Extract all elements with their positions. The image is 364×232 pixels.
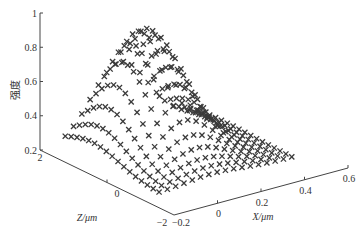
data-point-marker <box>127 47 132 52</box>
data-point-marker <box>153 179 158 184</box>
data-point-marker <box>146 133 151 138</box>
data-point-marker <box>86 138 91 143</box>
data-point-marker <box>109 107 114 112</box>
data-point-marker <box>80 136 85 141</box>
data-point-marker <box>167 49 172 54</box>
data-point-marker <box>143 92 148 97</box>
data-point-marker <box>160 86 165 91</box>
data-point-marker <box>217 162 222 167</box>
intensity-tick-label: 1 <box>32 8 37 19</box>
data-point-marker <box>152 144 157 149</box>
data-point-marker <box>127 169 132 174</box>
data-point-marker <box>97 104 102 109</box>
data-point-marker <box>183 135 188 140</box>
data-point-marker <box>146 80 151 85</box>
data-point-marker <box>277 148 282 153</box>
x-axis-label: X/μm <box>251 211 273 222</box>
data-point-marker <box>253 153 258 158</box>
data-point-marker <box>157 94 162 99</box>
data-point-marker <box>163 110 168 115</box>
data-point-marker <box>135 162 140 167</box>
data-point-marker <box>211 154 216 159</box>
data-point-marker <box>198 174 203 179</box>
data-point-marker <box>168 97 173 102</box>
z-tick-label: 2 <box>38 152 43 163</box>
data-point-marker <box>98 144 103 149</box>
intensity-tick-label: 0.8 <box>25 42 38 53</box>
data-point-marker <box>120 119 125 124</box>
data-point-marker <box>144 26 149 31</box>
data-point-marker <box>149 106 154 111</box>
data-point-marker <box>112 136 117 141</box>
chart-3d-scatter: 0.20.40.60.81−202−0.200.20.40.6 强度 Z/μm … <box>0 0 364 232</box>
data-point-marker <box>180 151 185 156</box>
data-point-marker <box>179 100 184 105</box>
data-point-marker <box>181 181 186 186</box>
data-point-marker <box>281 156 286 161</box>
data-point-marker <box>202 122 207 127</box>
data-point-marker <box>151 186 156 191</box>
data-point-marker <box>214 145 219 150</box>
data-point-marker <box>139 51 144 56</box>
intensity-tick-label: 0.4 <box>25 110 38 121</box>
data-point-marker <box>137 79 142 84</box>
intensity-tick-label: 0.6 <box>25 76 38 87</box>
data-point-marker <box>197 145 202 150</box>
data-point-marker <box>266 142 271 147</box>
data-point-marker <box>91 105 96 110</box>
data-point-marker <box>115 159 120 164</box>
data-point-marker <box>161 174 166 179</box>
x-tick-label: −0.2 <box>172 217 190 228</box>
data-point-marker <box>185 117 190 122</box>
data-point-marker <box>234 160 239 165</box>
data-point-marker <box>104 149 109 154</box>
x-tick-label: 0 <box>216 208 221 219</box>
data-point-marker <box>83 122 88 127</box>
data-point-marker <box>88 97 93 102</box>
data-point-marker <box>184 79 189 84</box>
data-point-marker <box>124 149 129 154</box>
data-point-marker <box>138 145 143 150</box>
data-point-marker <box>166 146 171 151</box>
data-point-marker <box>92 141 97 146</box>
data-point-marker <box>184 172 189 177</box>
data-point-marker <box>167 179 172 184</box>
data-point-marker <box>111 82 116 87</box>
data-point-marker <box>283 151 288 156</box>
data-point-marker <box>74 135 79 140</box>
data-point-marker <box>133 43 138 48</box>
data-point-marker <box>272 145 277 150</box>
data-point-marker <box>209 163 214 168</box>
data-point-marker <box>126 127 131 132</box>
data-point-marker <box>231 166 236 171</box>
data-point-marker <box>77 123 82 128</box>
data-point-marker <box>239 165 244 170</box>
data-point-marker <box>164 163 169 168</box>
data-point-marker <box>99 86 104 91</box>
data-point-marker <box>289 154 294 159</box>
data-point-marker <box>141 42 146 47</box>
data-point-marker <box>228 154 233 159</box>
data-point-marker <box>151 77 156 82</box>
data-point-marker <box>275 153 280 158</box>
data-point-marker <box>178 165 183 170</box>
data-point-marker <box>244 154 249 159</box>
data-point-marker <box>150 162 155 167</box>
data-point-marker <box>121 164 126 169</box>
data-point-marker <box>123 91 128 96</box>
data-point-marker <box>129 99 134 104</box>
data-point-marker <box>174 140 179 145</box>
data-point-marker <box>114 112 119 117</box>
data-point-marker <box>189 147 194 152</box>
data-point-marker <box>162 98 167 103</box>
data-point-marker <box>145 62 150 67</box>
data-point-marker <box>130 156 135 161</box>
data-point-marker <box>69 134 74 139</box>
data-point-marker <box>156 189 161 194</box>
data-point-marker <box>130 32 135 37</box>
data-point-marker <box>71 124 76 129</box>
data-point-marker <box>173 184 178 189</box>
data-point-marker <box>177 120 182 125</box>
data-point-marker <box>267 155 272 160</box>
data-point-marker <box>200 165 205 170</box>
